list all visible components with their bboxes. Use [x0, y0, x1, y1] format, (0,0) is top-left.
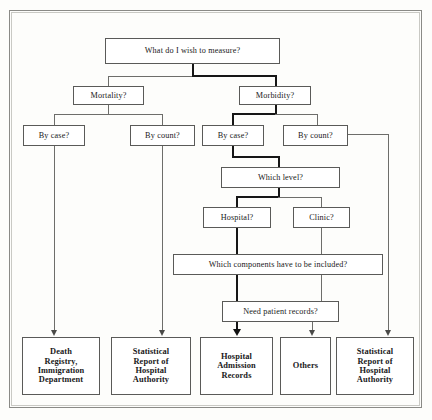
terminal-line-2: Registry,: [45, 357, 78, 366]
edge-mortality-stem: [108, 104, 109, 114]
edge-morbidity-bar-left: [232, 113, 277, 115]
node-need-patient-records[interactable]: Need patient records?: [222, 301, 339, 322]
edge-morbidity-bar-right: [275, 114, 318, 115]
edge-components-right-drop: [321, 274, 322, 301]
edge-whichlevel-bar-left: [236, 196, 279, 198]
edge-whichlevel-to-hospital: [236, 196, 238, 207]
edge-mortality-to-count: [162, 114, 163, 125]
edge-morbidity-to-case: [232, 113, 234, 125]
node-which-level[interactable]: Which level?: [221, 167, 340, 188]
node-label: By count?: [145, 131, 180, 140]
terminal-line-1: Statistical: [133, 347, 169, 356]
arrow-to-death-registry: [51, 330, 57, 336]
diagram-frame: What do I wish to measure? Mortality? Mo…: [9, 10, 422, 408]
arrow-to-others: [309, 330, 315, 336]
arrow-to-statistical-report-1: [159, 330, 165, 336]
edge-mortality-to-case: [54, 114, 55, 125]
edge-root-bar-left: [108, 76, 193, 77]
node-label: Hospital?: [221, 213, 254, 222]
edge-components-to-records: [236, 274, 238, 301]
terminal-line-3: Hospital: [359, 366, 390, 375]
terminal-line-1: Statistical: [357, 347, 393, 356]
terminal-line-1: Death: [50, 347, 72, 356]
edge-morbidity-to-count: [317, 114, 318, 125]
edge-root-bar-right: [192, 75, 276, 77]
edge-morbcase-jog: [232, 156, 280, 158]
node-label: Which level?: [258, 173, 303, 182]
node-label: By case?: [39, 131, 70, 140]
edge-root-to-morbidity: [275, 75, 277, 86]
arrow-to-statistical-report-2: [385, 330, 391, 336]
terminal-line-2: Report of: [357, 357, 392, 366]
node-label: Need patient records?: [243, 307, 318, 316]
arrow-to-hospital-admission-records: [233, 329, 241, 336]
node-label: Mortality?: [90, 91, 126, 100]
edge-root-to-mortality: [108, 76, 109, 86]
node-mortality-by-count[interactable]: By count?: [130, 125, 195, 146]
terminal-line-4: Authority: [357, 375, 393, 384]
terminal-others[interactable]: Others: [280, 337, 331, 395]
terminal-death-registry[interactable]: Death Registry, Immigration Department: [22, 337, 100, 395]
node-clinic[interactable]: Clinic?: [293, 207, 350, 228]
edge-right-rail: [388, 134, 389, 331]
terminal-line-3: Records: [221, 371, 251, 380]
terminal-line-3: Hospital: [135, 366, 166, 375]
node-morbidity-by-count[interactable]: By count?: [283, 125, 348, 146]
edge-mortcase-to-death: [54, 145, 55, 331]
terminal-statistical-report-hospital-authority-2[interactable]: Statistical Report of Hospital Authority: [336, 337, 414, 395]
node-hospital[interactable]: Hospital?: [203, 207, 271, 228]
node-label: By case?: [218, 131, 249, 140]
node-what-do-i-wish-to-measure[interactable]: What do I wish to measure?: [105, 38, 280, 64]
node-morbidity-by-case[interactable]: By case?: [202, 125, 264, 146]
flowchart-canvas: What do I wish to measure? Mortality? Mo…: [0, 0, 432, 420]
terminal-line-2: Report of: [133, 357, 168, 366]
node-morbidity[interactable]: Morbidity?: [239, 86, 311, 105]
node-label: Clinic?: [309, 213, 334, 222]
terminal-line-4: Authority: [133, 375, 169, 384]
terminal-line-4: Department: [39, 375, 83, 384]
terminal-line-2: Admission: [217, 361, 256, 370]
edge-clinic-to-components: [321, 227, 322, 254]
edge-mortality-bar: [54, 114, 163, 115]
edge-morbcount-right: [346, 134, 389, 135]
node-mortality[interactable]: Mortality?: [73, 86, 144, 105]
node-label: Morbidity?: [256, 91, 294, 100]
node-mortality-by-case[interactable]: By case?: [23, 125, 85, 146]
terminal-line-1: Hospital: [221, 352, 252, 361]
node-label: What do I wish to measure?: [145, 46, 241, 55]
edge-whichlevel-bar-right: [278, 197, 322, 198]
node-which-components[interactable]: Which components have to be included?: [173, 254, 383, 275]
terminal-statistical-report-hospital-authority-1[interactable]: Statistical Report of Hospital Authority: [111, 337, 191, 395]
node-label: By count?: [298, 131, 333, 140]
edge-morbcase-drop: [278, 156, 280, 167]
node-label: Which components have to be included?: [209, 260, 348, 269]
edge-hospital-to-components: [236, 227, 238, 254]
terminal-line-3: Immigration: [38, 366, 85, 375]
terminal-line-1: Others: [293, 361, 318, 370]
edge-mortcount-to-stat1: [162, 145, 163, 331]
terminal-hospital-admission-records[interactable]: Hospital Admission Records: [200, 337, 273, 395]
